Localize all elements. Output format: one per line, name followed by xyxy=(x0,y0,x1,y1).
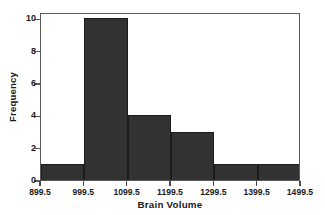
y-tick-label: 4 xyxy=(12,111,36,120)
y-tick-label: 0 xyxy=(12,176,36,185)
histogram-chart: Frequency 0246810 899.5999.51099.51199.5… xyxy=(0,0,325,215)
x-tick-mark xyxy=(299,181,300,186)
x-tick-label: 1499.5 xyxy=(270,187,325,197)
y-tick-label: 2 xyxy=(12,144,36,153)
histogram-bar xyxy=(128,115,171,180)
histogram-bar xyxy=(258,164,300,180)
x-tick-mark xyxy=(169,181,170,186)
histogram-bar xyxy=(214,164,257,180)
plot-area xyxy=(40,13,300,181)
y-tick-label: 6 xyxy=(12,79,36,88)
x-tick-mark xyxy=(256,181,257,186)
x-tick-mark xyxy=(83,181,84,186)
y-tick-label: 10 xyxy=(12,14,36,23)
bars-layer xyxy=(41,14,299,180)
x-tick-mark xyxy=(39,181,40,186)
y-tick-label: 8 xyxy=(12,47,36,56)
x-tick-mark xyxy=(213,181,214,186)
histogram-bar xyxy=(171,132,214,180)
y-axis-label: Frequency xyxy=(6,13,20,181)
x-axis-label: Brain Volume xyxy=(40,199,300,211)
histogram-bar xyxy=(41,164,84,180)
histogram-bar xyxy=(84,18,127,180)
x-tick-mark xyxy=(126,181,127,186)
